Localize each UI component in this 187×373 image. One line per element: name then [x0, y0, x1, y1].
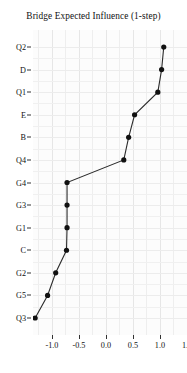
x-axis-label: 1.5 — [182, 341, 187, 350]
data-point-g1 — [64, 225, 69, 230]
bridge-expected-influence-chart: Bridge Expected Influence (1-step) Q2DQ1… — [0, 0, 187, 373]
data-point-g5 — [45, 293, 50, 298]
chart-title: Bridge Expected Influence (1-step) — [0, 11, 187, 21]
y-axis-tick — [27, 137, 31, 138]
x-axis-tick — [52, 335, 53, 339]
y-axis-label-q1: Q1 — [16, 88, 26, 97]
y-axis-tick — [27, 159, 31, 160]
data-point-g2 — [53, 270, 58, 275]
plot-panel — [33, 30, 187, 335]
series-line — [35, 47, 164, 318]
x-axis-label: -1.0 — [45, 341, 58, 350]
data-point-q1 — [155, 90, 160, 95]
y-axis-tick — [27, 295, 31, 296]
data-point-d — [159, 67, 164, 72]
x-axis-label: 0.0 — [101, 341, 111, 350]
data-point-q3 — [33, 315, 38, 320]
y-axis-tick — [27, 182, 31, 183]
x-axis-tick — [133, 335, 134, 339]
data-point-e — [132, 112, 137, 117]
y-axis-label-g5: G5 — [16, 291, 26, 300]
data-point-q2 — [161, 44, 166, 49]
x-axis-tick — [106, 335, 107, 339]
data-point-q4 — [121, 157, 126, 162]
y-axis-tick — [27, 205, 31, 206]
y-axis-label-q2: Q2 — [16, 43, 26, 52]
y-axis-tick — [27, 272, 31, 273]
x-axis: -1.0-0.50.00.51.01.5 — [33, 335, 187, 373]
y-axis-label-q4: Q4 — [16, 155, 26, 164]
y-axis-label-g2: G2 — [16, 268, 26, 277]
y-axis-label-d: D — [20, 65, 26, 74]
y-axis-tick — [27, 69, 31, 70]
y-axis-tick — [27, 250, 31, 251]
y-axis-label-b: B — [21, 133, 26, 142]
y-axis-label-e: E — [21, 110, 26, 119]
x-axis-label: 0.5 — [128, 341, 138, 350]
series-plot — [33, 30, 187, 335]
y-axis-tick — [27, 92, 31, 93]
y-axis-label-g3: G3 — [16, 201, 26, 210]
y-axis-tick — [27, 47, 31, 48]
x-axis-label: -0.5 — [72, 341, 85, 350]
y-axis: Q2DQ1EBQ4G4G3G1CG2G5Q3 — [0, 30, 33, 335]
data-point-g3 — [64, 202, 69, 207]
y-axis-label-c: C — [21, 246, 26, 255]
data-point-b — [126, 135, 131, 140]
y-axis-tick — [27, 114, 31, 115]
y-axis-label-g4: G4 — [16, 178, 26, 187]
y-axis-label-q3: Q3 — [16, 314, 26, 323]
data-point-c — [64, 248, 69, 253]
y-axis-tick — [27, 227, 31, 228]
y-axis-tick — [27, 318, 31, 319]
y-axis-label-g1: G1 — [16, 223, 26, 232]
data-point-g4 — [64, 180, 69, 185]
x-axis-label: 1.0 — [155, 341, 165, 350]
x-axis-tick — [79, 335, 80, 339]
x-axis-tick — [160, 335, 161, 339]
